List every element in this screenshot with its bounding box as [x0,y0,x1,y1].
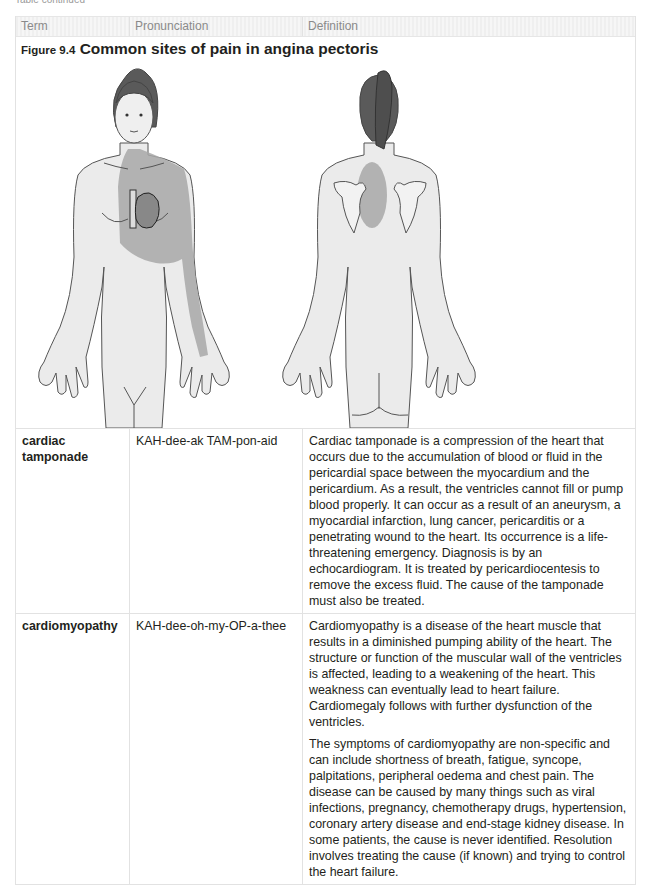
definition-paragraph: Cardiac tamponade is a compression of th… [309,433,630,609]
header-definition: Definition [303,17,635,36]
figure-row: Figure 9.4 Common sites of pain in angin… [16,37,635,429]
table-header: Term Pronunciation Definition [16,16,635,37]
header-pronunciation: Pronunciation [130,17,303,36]
terminology-table: Term Pronunciation Definition Figure 9.4… [15,16,636,885]
angina-pain-sites-illustration [16,37,636,428]
pronunciation-cell: KAH-dee-ak TAM-pon-aid [130,429,303,613]
term-cell: cardiac tamponade [16,429,130,613]
definition-cell: Cardiomyopathy is a disease of the heart… [303,614,635,884]
definition-paragraph: The symptoms of cardiomyopathy are non-s… [309,736,630,880]
front-view-figure [39,69,230,428]
header-term: Term [16,17,130,36]
pronunciation-cell: KAH-dee-oh-my-OP-a-thee [130,614,303,884]
table-continued-label: Table continued [15,0,85,5]
definition-cell: Cardiac tamponade is a compression of th… [303,429,635,613]
definition-paragraph: Cardiomyopathy is a disease of the heart… [309,618,630,730]
term-cell: cardiomyopathy [16,614,130,884]
back-view-figure [283,71,476,428]
table-row: cardiac tamponade KAH-dee-ak TAM-pon-aid… [16,429,635,614]
table-row: cardiomyopathy KAH-dee-oh-my-OP-a-thee C… [16,614,635,884]
